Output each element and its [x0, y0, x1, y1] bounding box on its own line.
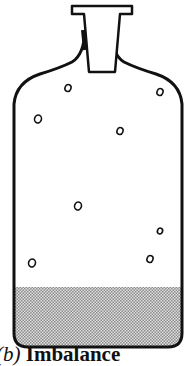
bubble [33, 114, 42, 124]
sediment-layer [15, 287, 181, 346]
bubble [116, 127, 124, 136]
figure-caption: (b) Imbalance [0, 342, 120, 366]
bubble [73, 201, 82, 211]
bubble [27, 258, 36, 268]
caption-label: (b) [0, 342, 21, 366]
bubble [156, 88, 164, 97]
caption-text: Imbalance [26, 342, 121, 366]
bubbles [27, 84, 164, 268]
bubble [146, 255, 154, 264]
bubble [64, 84, 72, 93]
bubble [157, 227, 164, 234]
